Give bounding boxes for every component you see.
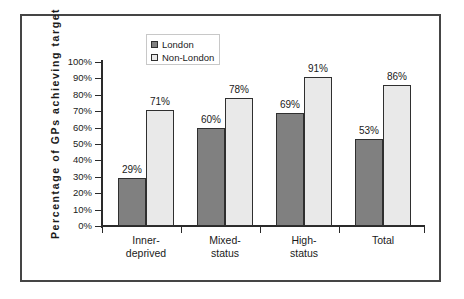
legend-label: Non-London bbox=[162, 51, 214, 64]
y-axis-tick-label: 90% bbox=[52, 73, 92, 83]
x-axis-category-label-line: Total bbox=[328, 234, 438, 247]
bar-london-mixed-status bbox=[197, 128, 225, 226]
bar-value-label: 78% bbox=[217, 85, 261, 95]
y-axis-tick-label: 50% bbox=[52, 139, 92, 149]
bar-non-london-inner-deprived bbox=[146, 110, 174, 226]
x-axis-tick-mark bbox=[181, 227, 182, 233]
bar-london-total bbox=[355, 139, 383, 226]
y-axis-tick-label: 10% bbox=[52, 205, 92, 215]
x-axis-tick-mark bbox=[424, 227, 425, 233]
y-axis-tick-label: 20% bbox=[52, 188, 92, 198]
y-axis-tick-mark bbox=[95, 128, 103, 129]
x-axis-category-label-line: status bbox=[249, 247, 359, 260]
y-axis-tick-mark bbox=[95, 177, 103, 178]
chart-legend: LondonNon-London bbox=[146, 34, 220, 65]
legend-label: London bbox=[162, 38, 194, 51]
y-axis-tick-label: 70% bbox=[52, 106, 92, 116]
bar-value-label: 71% bbox=[138, 97, 182, 107]
bar-non-london-total bbox=[383, 85, 411, 226]
x-axis-tick-mark bbox=[339, 227, 340, 233]
chart-figure: Percentage of GPs achieving target 100%9… bbox=[0, 0, 464, 299]
y-axis-tick-label: 60% bbox=[52, 123, 92, 133]
y-axis-tick-label: 30% bbox=[52, 172, 92, 182]
legend-swatch-icon bbox=[151, 54, 158, 61]
y-axis-tick-mark bbox=[95, 193, 103, 194]
y-axis-tick-mark bbox=[95, 210, 103, 211]
y-axis-tick-label: 0% bbox=[52, 221, 92, 231]
x-axis-tick-mark bbox=[260, 227, 261, 233]
bar-non-london-high-status bbox=[304, 77, 332, 226]
y-axis-tick-mark bbox=[95, 160, 103, 161]
y-axis-tick-label: 80% bbox=[52, 90, 92, 100]
bar-london-inner-deprived bbox=[118, 178, 146, 226]
y-axis-tick-label: 40% bbox=[52, 155, 92, 165]
bar-value-label: 86% bbox=[375, 72, 419, 82]
y-axis-tick-mark bbox=[95, 111, 103, 112]
y-axis-tick-label: 100% bbox=[52, 57, 92, 67]
y-axis-tick-mark bbox=[95, 78, 103, 79]
y-axis-tick-mark bbox=[95, 95, 103, 96]
x-axis-tick-mark bbox=[102, 227, 103, 233]
y-axis-tick-mark bbox=[95, 144, 103, 145]
bar-london-high-status bbox=[276, 113, 304, 226]
bar-non-london-mixed-status bbox=[225, 98, 253, 226]
y-axis-tick-mark bbox=[95, 62, 103, 63]
legend-swatch-icon bbox=[151, 41, 158, 48]
bar-value-label: 91% bbox=[296, 64, 340, 74]
x-axis-category-label: Total bbox=[328, 234, 438, 247]
